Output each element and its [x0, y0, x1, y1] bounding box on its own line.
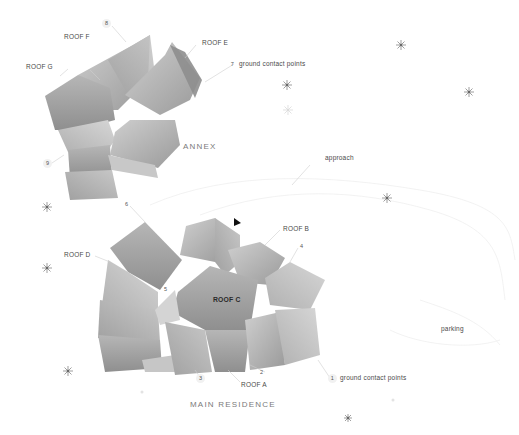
- roof-a-label: ROOF A: [241, 381, 267, 388]
- roof-g-label: ROOF G: [26, 63, 53, 70]
- point-8-marker: 8: [102, 19, 111, 28]
- site-plan-diagram: ANNEX MAIN RESIDENCE ROOF F ROOF G ROOF …: [0, 0, 519, 435]
- ground-contact-annex-text: ground contact points: [239, 60, 305, 67]
- point-6-marker: 6: [122, 200, 131, 209]
- roof-c-label: ROOF C: [213, 296, 241, 303]
- point-4-marker: 4: [297, 242, 306, 251]
- ground-contact-main-text: ground contact points: [340, 374, 406, 381]
- main-residence-roofs: [98, 218, 325, 375]
- approach-label: approach: [325, 154, 354, 161]
- point-5-marker: 5: [161, 285, 170, 294]
- main-residence-title: MAIN RESIDENCE: [190, 400, 276, 409]
- point-9-marker: 9: [43, 159, 52, 168]
- roof-e-label: ROOF E: [202, 39, 228, 46]
- roof-f-label: ROOF F: [64, 33, 90, 40]
- point-3-marker: 3: [196, 374, 205, 383]
- annex-title: ANNEX: [183, 142, 217, 151]
- parking-label: parking: [441, 325, 464, 332]
- ground-contact-main-label: 1ground contact points: [328, 374, 406, 383]
- ground-contact-annex-label: 7ground contact points: [228, 60, 305, 69]
- point-2-marker: 2: [257, 368, 266, 377]
- roof-b-label: ROOF B: [283, 225, 309, 232]
- roof-d-label: ROOF D: [64, 251, 90, 258]
- point-1-marker: 1: [328, 374, 337, 383]
- north-arrow-icon: [234, 218, 241, 226]
- annex-roofs: [45, 35, 202, 200]
- point-7-marker: 7: [228, 60, 237, 69]
